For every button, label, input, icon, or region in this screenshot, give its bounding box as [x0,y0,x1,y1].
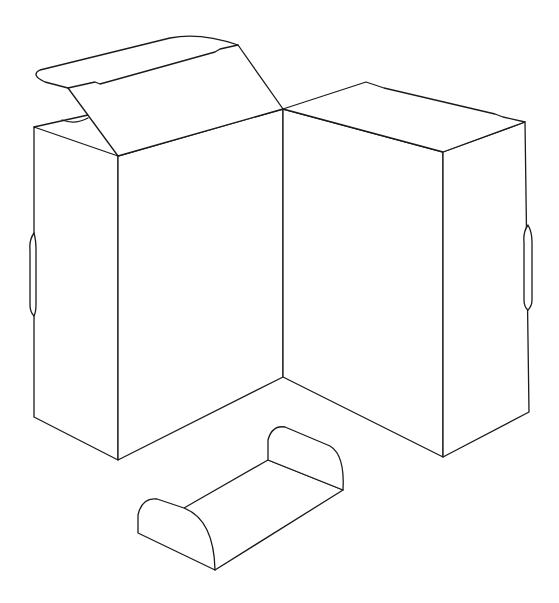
tray-insert [138,427,343,570]
left-carton-front-face [118,109,283,460]
right-hand-slot [524,225,532,310]
left-hand-slot [30,233,36,316]
right-carton-front-face [283,109,443,457]
closed-carton [283,82,532,457]
open-carton [30,36,283,460]
left-carton-side-face [34,127,118,460]
right-carton-side-face [443,122,529,457]
box-diagram [0,0,559,603]
